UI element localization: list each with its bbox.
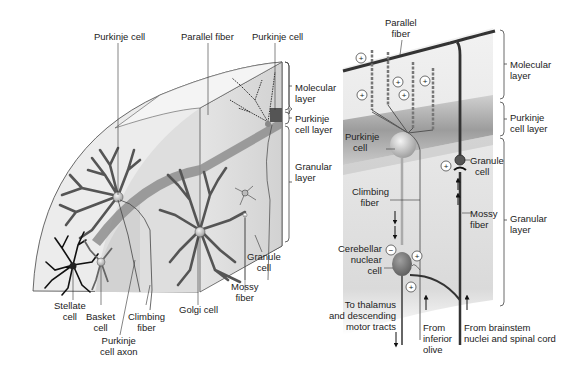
label-line: layer bbox=[295, 172, 332, 183]
label-golgi-cell: Golgi cell bbox=[179, 304, 218, 315]
label-line: and descending bbox=[329, 310, 396, 321]
granule-soma-right bbox=[455, 155, 465, 165]
label-line: nuclear bbox=[338, 254, 382, 265]
cerebellum-circuit-diagram: + + + + + + − + + Purkinje cell Parallel… bbox=[0, 0, 585, 373]
label-line: cell layer bbox=[295, 124, 333, 135]
label-line: cell bbox=[86, 322, 115, 333]
label-purkinje-cell-left: Purkinje cell bbox=[94, 31, 145, 42]
label-from-brainstem: From brainstem nuclei and spinal cord bbox=[464, 322, 556, 344]
label-line: cell bbox=[470, 166, 504, 177]
label-line: fiber bbox=[385, 28, 417, 39]
label-line: cell bbox=[54, 311, 86, 322]
label-to-thalamus: To thalamus and descending motor tracts bbox=[329, 299, 396, 332]
label-line: Purkinje bbox=[100, 335, 138, 346]
svg-text:+: + bbox=[444, 162, 449, 171]
label-line: fiber bbox=[128, 322, 165, 333]
right-schematic-block bbox=[343, 28, 493, 335]
excitatory-sign-icon: + bbox=[399, 90, 409, 100]
label-purkinje-cell-top: Purkinje cell bbox=[252, 31, 303, 42]
label-purkinje-cell-axon: Purkinje cell axon bbox=[100, 335, 138, 357]
label-line: cell bbox=[345, 142, 379, 153]
label-line: cell axon bbox=[100, 346, 138, 357]
label-line: olive bbox=[423, 344, 452, 355]
label-climbing-fiber-right: Climbing fiber bbox=[352, 186, 389, 208]
label-mossy-fiber-left: Mossy fiber bbox=[231, 281, 258, 303]
label-line: motor tracts bbox=[329, 321, 396, 332]
label-line: cell bbox=[338, 265, 382, 276]
label-line: Stellate bbox=[54, 300, 86, 311]
label-line: Parallel bbox=[385, 17, 417, 28]
label-line: Cerebellar bbox=[338, 243, 382, 254]
golgi-soma bbox=[195, 227, 205, 237]
label-line: Climbing bbox=[352, 186, 389, 197]
svg-text:+: + bbox=[409, 283, 414, 292]
svg-text:−: − bbox=[389, 246, 394, 255]
label-line: layer bbox=[510, 70, 551, 81]
label-line: Basket bbox=[86, 311, 115, 322]
label-line: Purkinje bbox=[345, 131, 379, 142]
excitatory-sign-icon: + bbox=[406, 282, 416, 292]
label-line: Molecular bbox=[295, 82, 336, 93]
purkinje-soma-top bbox=[265, 121, 271, 127]
svg-text:+: + bbox=[396, 78, 401, 87]
label-line: cell layer bbox=[510, 123, 548, 134]
svg-text:+: + bbox=[359, 54, 364, 63]
excitatory-sign-icon: + bbox=[420, 76, 430, 86]
svg-text:+: + bbox=[360, 91, 365, 100]
label-line: Molecular bbox=[510, 59, 551, 70]
label-purkinje-cell-layer-right: Purkinje cell layer bbox=[510, 112, 548, 134]
label-line: layer bbox=[510, 224, 547, 235]
excitatory-sign-icon: + bbox=[357, 90, 367, 100]
label-purkinje-cell-right: Purkinje cell bbox=[345, 131, 379, 153]
label-line: inferior bbox=[423, 333, 452, 344]
label-line: nuclei and spinal cord bbox=[464, 333, 556, 344]
label-line: Mossy bbox=[231, 281, 258, 292]
label-line: fiber bbox=[352, 197, 389, 208]
label-granule-cell-right: Granule cell bbox=[470, 155, 504, 177]
label-line: Purkinje bbox=[510, 112, 548, 123]
label-parallel-fiber-left: Parallel fiber bbox=[181, 31, 234, 42]
label-line: Granule bbox=[247, 251, 281, 262]
svg-text:+: + bbox=[415, 252, 420, 261]
svg-text:+: + bbox=[423, 77, 428, 86]
label-line: Granular bbox=[510, 213, 547, 224]
label-basket-cell: Basket cell bbox=[86, 311, 115, 333]
label-climbing-fiber-left: Climbing fiber bbox=[128, 311, 165, 333]
label-line: Mossy bbox=[470, 208, 497, 219]
label-line: layer bbox=[295, 93, 336, 104]
excitatory-sign-icon: + bbox=[356, 53, 366, 63]
label-mossy-fiber-right: Mossy fiber bbox=[470, 208, 497, 230]
nuclear-cell bbox=[392, 252, 412, 276]
excitatory-sign-icon: + bbox=[441, 161, 451, 171]
label-line: fiber bbox=[470, 219, 497, 230]
label-molecular-layer-left: Molecular layer bbox=[295, 82, 336, 104]
label-granular-layer-left: Granular layer bbox=[295, 161, 332, 183]
label-line: Granule bbox=[470, 155, 504, 166]
label-from-inferior-olive: From inferior olive bbox=[423, 322, 452, 355]
left-layer-braces bbox=[285, 62, 292, 242]
label-line: cell bbox=[247, 262, 281, 273]
label-parallel-fiber-right: Parallel fiber bbox=[385, 17, 417, 39]
label-line: Purkinje bbox=[295, 113, 333, 124]
label-molecular-layer-right: Molecular layer bbox=[510, 59, 551, 81]
svg-text:+: + bbox=[402, 91, 407, 100]
label-line: Climbing bbox=[128, 311, 165, 322]
label-line: fiber bbox=[231, 292, 258, 303]
label-line: Granular bbox=[295, 161, 332, 172]
inhibitory-sign-icon: − bbox=[386, 245, 396, 255]
excitatory-sign-icon: + bbox=[393, 77, 403, 87]
label-granular-layer-right: Granular layer bbox=[510, 213, 547, 235]
label-purkinje-cell-layer-left: Purkinje cell layer bbox=[295, 113, 333, 135]
label-line: From bbox=[423, 322, 452, 333]
label-stellate-cell: Stellate cell bbox=[54, 300, 86, 322]
label-granule-cell-left: Granule cell bbox=[247, 251, 281, 273]
label-cerebellar-nuclear-cell: Cerebellar nuclear cell bbox=[338, 243, 382, 276]
label-line: From brainstem bbox=[464, 322, 556, 333]
label-line: To thalamus bbox=[329, 299, 396, 310]
excitatory-sign-icon: + bbox=[412, 251, 422, 261]
